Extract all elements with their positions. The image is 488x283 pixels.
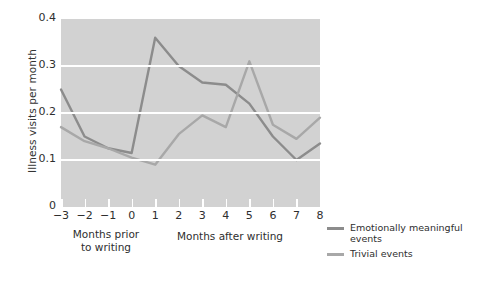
legend-item[interactable]: Emotionally meaningfulevents [327,222,485,244]
x-tick-mark [61,199,63,207]
x-tick-label: 4 [214,209,238,222]
y-tick-label: 0.2 [10,105,56,118]
plot-panel [61,19,320,207]
x-tick-label: −3 [49,209,73,222]
legend-label: Trivial events [350,248,413,259]
x-tick-label: 6 [261,209,285,222]
gridline [61,112,320,114]
x-tick-label: 0 [120,209,144,222]
x-tick-mark [320,199,322,207]
x-tick-mark [296,199,298,207]
x-tick-label: −2 [73,209,97,222]
legend-item[interactable]: Trivial events [327,248,485,259]
x-tick-label: 7 [284,209,308,222]
x-tick-label: 3 [190,209,214,222]
gridline [61,65,320,67]
x-tick-mark [273,199,275,207]
x-tick-mark [226,199,228,207]
x-tick-label: 5 [237,209,261,222]
x-tick-label: 2 [167,209,191,222]
chart-figure: Illness visits per month 00.10.20.30.4 −… [0,0,488,283]
legend-swatch-icon [327,227,344,230]
chart-legend: Emotionally meaningfuleventsTrivial even… [327,222,485,263]
gridline [61,159,320,161]
y-tick-label: 0.3 [10,58,56,71]
x-tick-mark [202,199,204,207]
y-axis-ticks: 00.10.20.30.4 [6,19,56,207]
x-tick-mark [155,199,157,207]
x-group-label-prior-line2: to writing [58,241,154,254]
x-tick-mark [179,199,181,207]
x-tick-mark [249,199,251,207]
x-tick-label: 8 [308,209,332,222]
x-tick-mark [85,199,87,207]
x-tick-mark [132,199,134,207]
x-group-label-after: Months after writing [155,230,305,242]
x-group-label-prior: Months prior to writing [58,228,154,253]
x-group-label-prior-line1: Months prior [58,228,154,241]
x-tick-label: 1 [143,209,167,222]
y-tick-label: 0.1 [10,152,56,165]
legend-swatch-icon [327,253,344,256]
series-line-1 [61,38,320,160]
x-tick-label: −1 [96,209,120,222]
x-tick-mark [108,199,110,207]
y-tick-label: 0.4 [10,11,56,24]
legend-label: Emotionally meaningfulevents [350,222,463,244]
